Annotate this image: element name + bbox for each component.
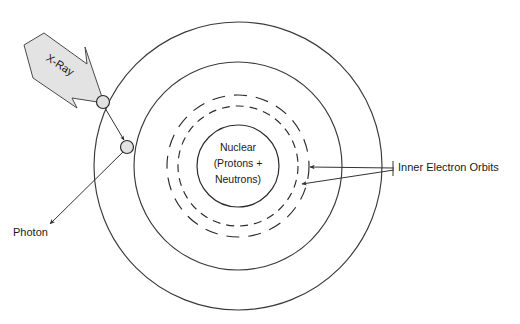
electron-struck [97, 96, 110, 109]
inner-orbits-leader-upper [310, 167, 394, 168]
nucleus-label-line2: (Protons + [214, 157, 263, 169]
nucleus-label-line1: Nuclear [220, 141, 257, 153]
electron-ejected [121, 141, 134, 154]
inner-orbits-leader-lower [302, 170, 394, 184]
xray-atom-diagram: Nuclear (Protons + Neutrons) X-Ray Inner… [0, 0, 520, 324]
photon-label: Photon [13, 226, 48, 238]
diagram-canvas: Nuclear (Protons + Neutrons) X-Ray Inner… [0, 0, 520, 324]
electron-transition-arrow [105, 108, 124, 140]
photon-arrow [50, 149, 126, 224]
nucleus-label-line3: Neutrons) [215, 173, 261, 185]
inner-orbits-label: Inner Electron Orbits [398, 161, 499, 173]
